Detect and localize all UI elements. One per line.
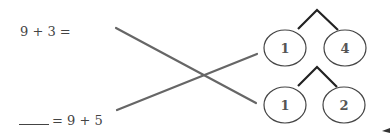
bond-top-left-value: 1 [280, 41, 289, 56]
cropped-arrow-mark [382, 128, 390, 133]
number-bond-top: 1 4 [264, 10, 366, 66]
bond-bottom-left-value: 1 [280, 98, 289, 113]
bond-top-right-value: 4 [340, 41, 349, 56]
worksheet-drawing: 1 4 1 2 [0, 0, 390, 139]
bond-bottom-branches [298, 67, 337, 87]
number-bond-bottom: 1 2 [264, 67, 365, 123]
matching-line-bottom-to-top-bond [117, 54, 257, 110]
bond-top-branches [298, 10, 338, 30]
matching-line-top-to-bottom-bond [116, 28, 256, 103]
bond-bottom-right-value: 2 [339, 98, 348, 113]
